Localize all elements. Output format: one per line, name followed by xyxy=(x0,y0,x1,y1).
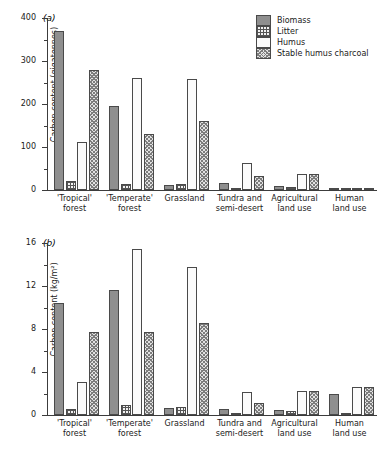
bar-humus xyxy=(132,78,142,190)
legend-label: Humus xyxy=(277,37,305,48)
bar-litter xyxy=(341,413,351,415)
bar-litter xyxy=(231,188,241,190)
y-tick-minor xyxy=(44,169,47,170)
bar-group xyxy=(329,243,374,415)
bar-group xyxy=(274,243,319,415)
y-tick-major: 16 xyxy=(42,243,47,244)
bar-biomass xyxy=(164,408,174,415)
dotted-swatch xyxy=(256,37,271,48)
bar-stable-humus-charcoal xyxy=(254,403,264,415)
category-label-line: Agricultural xyxy=(267,194,322,204)
category-label-line: land use xyxy=(267,429,322,439)
bar-stable-humus-charcoal xyxy=(254,176,264,190)
bar-litter xyxy=(121,405,131,415)
solid-grey-swatch xyxy=(256,15,271,26)
panel-b: (b) Carbon content (kg/m²) 0481216 'Trop… xyxy=(0,225,382,450)
y-axis-line-b xyxy=(47,243,48,415)
bar-stable-humus-charcoal xyxy=(199,323,209,415)
category-label-line: land use xyxy=(322,429,377,439)
category-label: Tundra andsemi-desert xyxy=(212,419,267,439)
bar-humus xyxy=(242,163,252,190)
y-tick-minor xyxy=(44,83,47,84)
legend-label: Stable humus charcoal xyxy=(277,48,369,59)
bar-stable-humus-charcoal xyxy=(89,332,99,415)
category-label-line: forest xyxy=(47,204,102,214)
category-label-line: forest xyxy=(47,429,102,439)
diagonal-cross-swatch xyxy=(256,48,271,59)
legend-item-stable-humus-charcoal[interactable]: Stable humus charcoal xyxy=(256,48,369,59)
category-label-line: forest xyxy=(102,429,157,439)
category-label-line: land use xyxy=(267,204,322,214)
category-label-line: forest xyxy=(102,204,157,214)
bar-biomass xyxy=(54,303,64,415)
y-tick-major: 100 xyxy=(42,147,47,148)
bar-litter xyxy=(176,184,186,190)
bar-litter xyxy=(176,407,186,415)
bar-stable-humus-charcoal xyxy=(199,121,209,190)
bar-group xyxy=(164,18,209,190)
bar-humus xyxy=(297,391,307,415)
bar-group xyxy=(219,243,264,415)
y-tick-minor xyxy=(44,394,47,395)
bar-humus xyxy=(187,267,197,415)
legend-item-litter[interactable]: Litter xyxy=(256,26,369,37)
category-label-line: Human xyxy=(322,419,377,429)
y-tick-label: 100 xyxy=(21,143,36,151)
category-label-line: Grassland xyxy=(157,419,212,429)
category-label-line: 'Temperate' xyxy=(102,194,157,204)
bar-biomass xyxy=(109,106,119,190)
y-tick-minor xyxy=(44,126,47,127)
category-label: Grassland xyxy=(157,194,212,204)
bar-biomass xyxy=(274,410,284,415)
bar-biomass xyxy=(329,394,339,416)
bar-stable-humus-charcoal xyxy=(144,134,154,190)
bar-biomass xyxy=(274,186,284,190)
y-tick-minor xyxy=(44,40,47,41)
bar-biomass xyxy=(109,290,119,415)
category-label-line: semi-desert xyxy=(212,204,267,214)
y-tick-major: 0 xyxy=(42,415,47,416)
bar-litter xyxy=(341,188,351,190)
bar-group xyxy=(54,18,99,190)
y-tick-label: 12 xyxy=(26,282,36,290)
bar-stable-humus-charcoal xyxy=(364,188,374,190)
bar-biomass xyxy=(219,183,229,190)
legend-a: BiomassLitterHumusStable humus charcoal xyxy=(256,15,369,59)
bar-group xyxy=(109,18,154,190)
cross-hatch-swatch xyxy=(256,26,271,37)
category-label-line: Human xyxy=(322,194,377,204)
bar-biomass xyxy=(54,31,64,190)
category-label-line: 'Tropical' xyxy=(47,194,102,204)
bar-litter xyxy=(231,413,241,415)
y-tick-major: 400 xyxy=(42,18,47,19)
y-tick-minor xyxy=(44,265,47,266)
bar-stable-humus-charcoal xyxy=(144,332,154,415)
category-label: Agriculturalland use xyxy=(267,419,322,439)
bar-humus xyxy=(187,79,197,190)
category-label: Agriculturalland use xyxy=(267,194,322,214)
bar-humus xyxy=(77,142,87,190)
category-label-line: Grassland xyxy=(157,194,212,204)
bar-stable-humus-charcoal xyxy=(309,391,319,415)
category-label: Humanland use xyxy=(322,194,377,214)
y-tick-label: 300 xyxy=(21,57,36,65)
y-tick-label: 200 xyxy=(21,100,36,108)
y-tick-label: 4 xyxy=(31,368,36,376)
y-tick-minor xyxy=(44,351,47,352)
y-tick-label: 16 xyxy=(26,239,36,247)
category-label-line: Tundra and xyxy=(212,419,267,429)
legend-item-humus[interactable]: Humus xyxy=(256,37,369,48)
x-axis-line-a xyxy=(47,190,377,191)
category-label: 'Temperate'forest xyxy=(102,194,157,214)
bar-humus xyxy=(352,188,362,190)
bar-humus xyxy=(352,387,362,415)
plot-area-b: Carbon content (kg/m²) 0481216 'Tropical… xyxy=(47,243,377,415)
legend-item-biomass[interactable]: Biomass xyxy=(256,15,369,26)
bar-group xyxy=(54,243,99,415)
bar-group xyxy=(164,243,209,415)
legend-label: Litter xyxy=(277,26,298,37)
bar-stable-humus-charcoal xyxy=(309,174,319,190)
category-label-line: land use xyxy=(322,204,377,214)
bar-humus xyxy=(77,382,87,415)
bar-litter xyxy=(121,184,131,190)
